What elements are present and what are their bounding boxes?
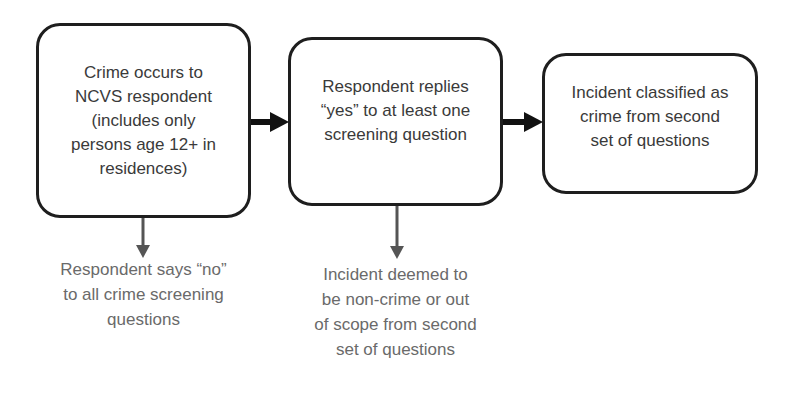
- arrow-box2-to-exit: [390, 206, 404, 259]
- node-classified-crime: Incident classified as crime from second…: [542, 53, 758, 194]
- node-replies-yes: Respondent replies “yes” to at least one…: [288, 37, 503, 206]
- arrow-box1-to-exit: [136, 218, 150, 258]
- exit-says-no: Respondent says “no” to all crime screen…: [36, 257, 251, 332]
- node-text: Incident classified as crime from second…: [572, 81, 729, 153]
- arrow-box2-to-box3: [503, 112, 543, 132]
- node-text: Crime occurs to NCVS respondent (include…: [71, 61, 216, 181]
- node-crime-occurs: Crime occurs to NCVS respondent (include…: [36, 23, 251, 218]
- node-text: Respondent replies “yes” to at least one…: [321, 75, 470, 147]
- exit-non-crime: Incident deemed to be non-crime or out o…: [288, 262, 503, 362]
- arrow-box1-to-box2: [251, 112, 289, 132]
